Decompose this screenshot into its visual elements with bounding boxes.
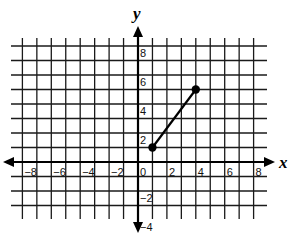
y-tick-label: 8 <box>140 47 146 59</box>
x-tick-label: 0 <box>140 166 146 178</box>
endpoint-dot <box>148 143 156 151</box>
x-tick-label: 2 <box>169 166 175 178</box>
x-tick-label: −4 <box>82 166 95 178</box>
y-tick-label: 6 <box>140 76 146 88</box>
endpoint-dot <box>192 85 200 93</box>
y-tick-label: 2 <box>140 134 146 146</box>
x-axis-label: x <box>278 153 288 172</box>
y-tick-label: −4 <box>140 221 153 233</box>
x-tick-label: 8 <box>256 166 262 178</box>
x-tick-label: −6 <box>53 166 66 178</box>
y-axis-label: y <box>131 4 141 23</box>
x-tick-label: −2 <box>111 166 124 178</box>
y-tick-label: −2 <box>140 192 153 204</box>
y-axis-up-arrow-icon <box>133 26 143 37</box>
x-tick-label: 6 <box>227 166 233 178</box>
y-tick-label: 4 <box>140 105 146 117</box>
coordinate-plane: x y −8−6−4−2024688642−2−4 <box>0 0 295 237</box>
x-tick-label: −8 <box>24 166 37 178</box>
x-tick-label: 4 <box>198 166 204 178</box>
x-axis-left-arrow-icon <box>3 157 14 167</box>
x-axis-right-arrow-icon <box>264 157 275 167</box>
